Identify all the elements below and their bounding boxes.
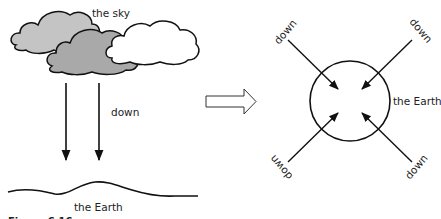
gravity-diagram: the sky down the Earth Figure 6.16 the E… (0, 0, 441, 219)
sky-label: the sky (92, 7, 130, 19)
earth-label-round: the Earth (393, 95, 441, 107)
arrow-bottom-right (362, 113, 412, 162)
arrow-top-right (362, 40, 412, 89)
earth-label-flat: the Earth (74, 201, 123, 213)
white-cloud (106, 21, 199, 65)
figure-caption: Figure 6.16 (8, 216, 72, 219)
down-label-top-left: down (271, 17, 298, 46)
down-label-bottom-left: down (267, 153, 294, 182)
down-label: down (111, 106, 139, 118)
hollow-arrow-icon (206, 89, 256, 114)
ground-line (8, 182, 198, 196)
arrow-top-left (288, 40, 338, 89)
arrow-bottom-left (288, 113, 338, 162)
